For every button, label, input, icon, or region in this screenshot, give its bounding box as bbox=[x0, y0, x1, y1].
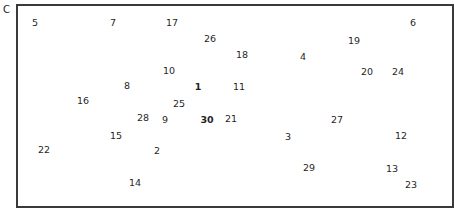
number-label: 2 bbox=[154, 146, 160, 156]
number-label: 14 bbox=[129, 178, 141, 188]
number-label: 21 bbox=[225, 114, 237, 124]
number-label: 1 bbox=[195, 82, 202, 92]
number-label: 29 bbox=[303, 163, 315, 173]
number-label: 23 bbox=[405, 180, 417, 190]
number-label: 9 bbox=[162, 115, 168, 125]
number-label: 28 bbox=[137, 113, 149, 123]
number-label: 7 bbox=[110, 18, 116, 28]
number-label: 3 bbox=[285, 132, 291, 142]
number-field-frame bbox=[16, 4, 454, 208]
number-label: 26 bbox=[204, 34, 216, 44]
number-label: 8 bbox=[124, 81, 130, 91]
number-label: 24 bbox=[392, 67, 404, 77]
number-label: 27 bbox=[331, 115, 343, 125]
number-label: 5 bbox=[32, 18, 38, 28]
number-label: 20 bbox=[361, 67, 373, 77]
number-label: 18 bbox=[236, 50, 248, 60]
number-label: 30 bbox=[200, 115, 213, 125]
number-label: 25 bbox=[173, 99, 185, 109]
number-label: 15 bbox=[110, 131, 122, 141]
number-label: 10 bbox=[163, 66, 175, 76]
number-label: 12 bbox=[395, 131, 407, 141]
panel-label: C bbox=[3, 4, 10, 15]
number-label: 11 bbox=[233, 82, 245, 92]
number-label: 4 bbox=[300, 52, 306, 62]
number-label: 17 bbox=[166, 18, 178, 28]
number-label: 6 bbox=[410, 18, 416, 28]
number-label: 19 bbox=[348, 36, 360, 46]
number-label: 13 bbox=[386, 164, 398, 174]
number-label: 16 bbox=[77, 96, 89, 106]
number-label: 22 bbox=[38, 145, 50, 155]
